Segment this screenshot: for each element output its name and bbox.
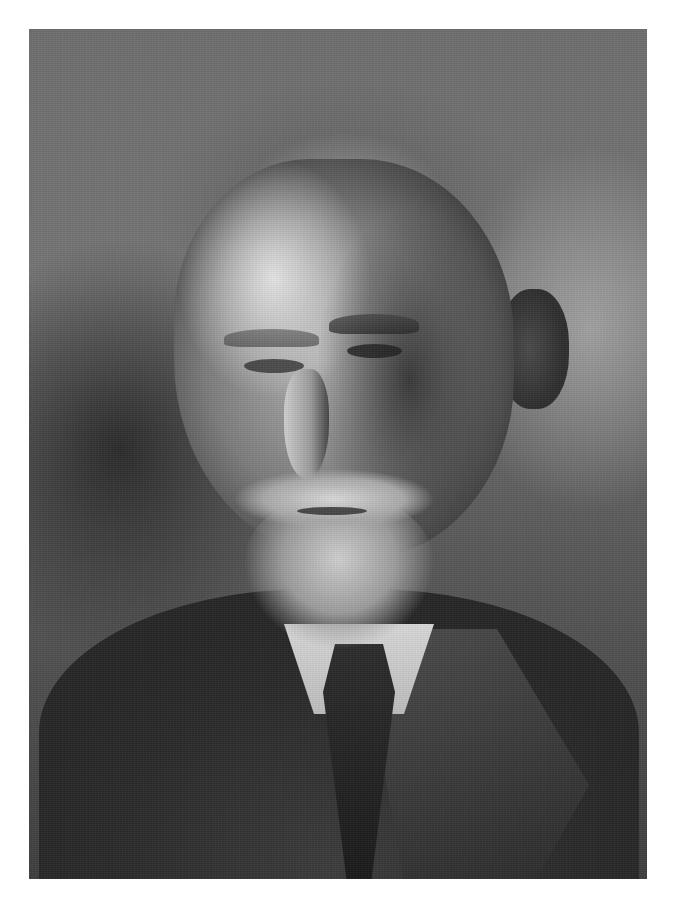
- photo-caption: [29, 896, 647, 908]
- film-grain: [29, 29, 647, 879]
- portrait-photo: [29, 29, 647, 879]
